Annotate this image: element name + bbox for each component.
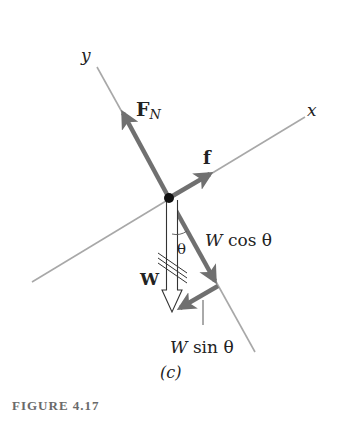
figure-caption: FIGURE 4.17: [12, 398, 100, 413]
weight-parallel-label: W sin θ: [170, 337, 234, 357]
wcos-w: W: [205, 230, 224, 250]
normal-force-main: F: [136, 98, 150, 120]
wcos-rest: cos θ: [228, 230, 272, 250]
wsin-rest: sin θ: [193, 337, 234, 357]
origin-dot: [164, 193, 174, 203]
normal-force-arrow: [123, 113, 169, 198]
free-body-diagram: y x FN f W θ W cos θ W sin θ (c) FIGURE …: [0, 0, 339, 421]
panel-label: (c): [160, 363, 181, 382]
normal-force-sub: N: [149, 107, 162, 122]
friction-label: f: [203, 147, 212, 168]
y-axis-label: y: [80, 45, 91, 65]
friction-arrow: [169, 174, 210, 198]
wsin-w: W: [170, 337, 189, 357]
normal-force-label: FN: [136, 98, 162, 122]
weight-label: W: [139, 269, 160, 289]
weight-parallel-arrow: [180, 286, 218, 308]
angle-label: θ: [177, 240, 186, 258]
x-axis-label: x: [307, 100, 317, 120]
weight-perpendicular-label: W cos θ: [205, 230, 272, 250]
